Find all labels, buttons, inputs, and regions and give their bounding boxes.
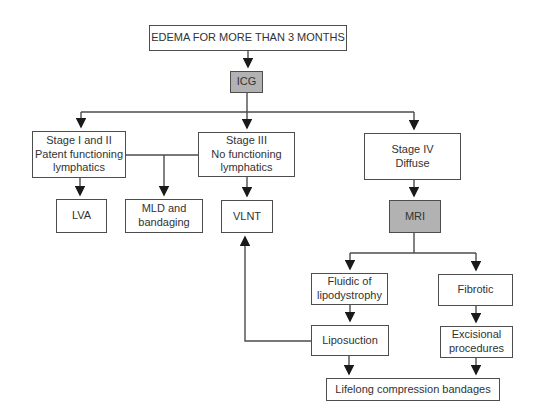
node-fluidic-lipodystrophy: Fluidic of lipodystrophy bbox=[311, 273, 388, 305]
edge-liposuction-vlnt bbox=[245, 237, 311, 341]
node-liposuction: Liposuction bbox=[311, 325, 389, 356]
node-stage-4: Stage IV Diffuse bbox=[364, 133, 461, 180]
node-stage-3: Stage III No functioning lymphatics bbox=[198, 132, 295, 177]
node-mld-bandaging: MLD and bandaging bbox=[125, 199, 203, 233]
node-lva: LVA bbox=[56, 199, 107, 233]
flowchart-canvas: EDEMA FOR MORE THAN 3 MONTHS ICG Stage I… bbox=[0, 0, 546, 415]
node-stage-1-2: Stage I and II Patent functioning lympha… bbox=[32, 131, 126, 178]
node-icg: ICG bbox=[230, 71, 263, 93]
node-fibrotic: Fibrotic bbox=[438, 274, 513, 306]
node-excisional-procedures: Excisional procedures bbox=[440, 326, 513, 358]
node-vlnt: VLNT bbox=[221, 200, 273, 233]
node-lifelong-compression-bandages: Lifelong compression bandages bbox=[326, 378, 500, 401]
node-edema: EDEMA FOR MORE THAN 3 MONTHS bbox=[149, 25, 347, 51]
node-mri: MRI bbox=[389, 200, 441, 233]
